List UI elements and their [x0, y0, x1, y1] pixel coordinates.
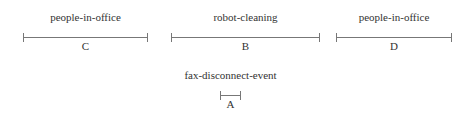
interval-endpoint-tick	[451, 33, 452, 42]
interval-id-label: C	[82, 40, 89, 52]
interval-id-label: A	[227, 98, 235, 110]
event-label: people-in-office	[50, 11, 121, 23]
event-label: fax-disconnect-event	[184, 69, 276, 81]
interval-endpoint-tick	[171, 33, 172, 42]
event-label: people-in-office	[359, 11, 430, 23]
interval-endpoint-tick	[220, 91, 221, 100]
interval-endpoint-tick	[240, 91, 241, 100]
interval-endpoint-tick	[336, 33, 337, 42]
interval-bar	[220, 95, 241, 96]
interval-endpoint-tick	[319, 33, 320, 42]
interval-endpoint-tick	[147, 33, 148, 42]
interval-id-label: D	[390, 40, 398, 52]
interval-bar	[336, 37, 452, 38]
interval-endpoint-tick	[23, 33, 24, 42]
interval-id-label: B	[242, 40, 249, 52]
event-label: robot-cleaning	[213, 11, 277, 23]
interval-bar	[171, 37, 320, 38]
interval-bar	[23, 37, 148, 38]
